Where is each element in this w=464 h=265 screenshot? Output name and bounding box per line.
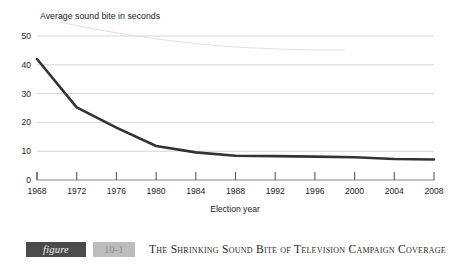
figure-number-chip: 10-1 — [93, 242, 135, 257]
y-tick-label-40: 40 — [21, 60, 31, 70]
x-axis-label: Election year — [210, 204, 260, 214]
figure-caption-title: The Shrinking Sound Bite of Television C… — [149, 243, 446, 256]
figure-word-chip: figure — [26, 242, 86, 257]
y-axis-label: Average sound bite in seconds — [40, 11, 161, 21]
x-tick-label-2004: 2004 — [385, 186, 404, 196]
y-tick-label-30: 30 — [21, 89, 31, 99]
x-tick-label-2000: 2000 — [345, 186, 364, 196]
x-tick-label-2008: 2008 — [424, 186, 443, 196]
x-tick-label-1992: 1992 — [266, 186, 285, 196]
figure-caption-bar: figure 10-1 The Shrinking Sound Bite of … — [0, 238, 464, 260]
x-tick-label-1976: 1976 — [107, 186, 126, 196]
x-tick-label-1968: 1968 — [27, 186, 46, 196]
y-tick-label-10: 10 — [21, 146, 31, 156]
x-tick-label-1984: 1984 — [186, 186, 205, 196]
x-tick-label-1972: 1972 — [67, 186, 86, 196]
x-tick-label-1996: 1996 — [305, 186, 324, 196]
chart-background — [0, 0, 464, 232]
y-tick-label-50: 50 — [21, 31, 31, 41]
chart-canvas: 50 40 30 20 10 0 Average sound bite in s… — [0, 0, 464, 232]
y-tick-label-20: 20 — [21, 117, 31, 127]
figure-container: 50 40 30 20 10 0 Average sound bite in s… — [0, 0, 464, 265]
y-tick-label-0: 0 — [26, 175, 31, 185]
x-tick-label-1980: 1980 — [147, 186, 166, 196]
figure-number-label: 10-1 — [104, 244, 124, 255]
figure-word-label: figure — [43, 244, 69, 255]
x-tick-label-1988: 1988 — [226, 186, 245, 196]
line-chart: 50 40 30 20 10 0 Average sound bite in s… — [0, 0, 464, 232]
